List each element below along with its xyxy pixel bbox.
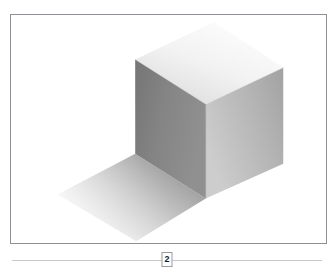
cube-illustration <box>11 15 326 243</box>
page-number: 2 <box>161 252 172 267</box>
page-root: 2 <box>0 0 334 274</box>
page-footer: 2 <box>0 252 334 274</box>
figure-frame <box>10 14 327 244</box>
figure-stage <box>11 15 326 243</box>
